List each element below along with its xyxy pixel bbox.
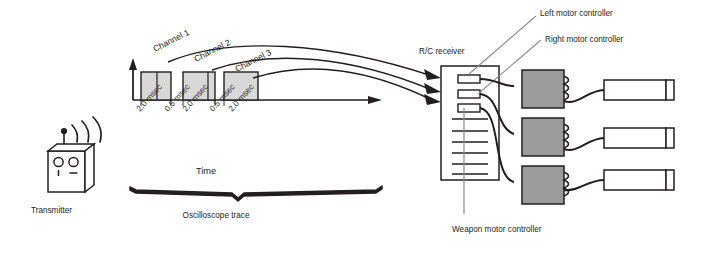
channel-3-arrow-path <box>253 69 432 100</box>
wire-controller-1-to-motor <box>564 90 604 102</box>
rc-receiver-group: R/C receiver <box>419 47 499 214</box>
left-controller-leader <box>469 16 536 74</box>
motor-cylinder-icon <box>604 170 674 190</box>
receiver-label: R/C receiver <box>419 47 465 56</box>
wire-controller-2-to-motor <box>564 138 604 150</box>
rc-system-diagram: Transmitter <box>0 0 704 254</box>
callout-right-motor-controller: Right motor controller <box>545 35 624 44</box>
receiver-connectors <box>458 75 480 112</box>
controller-box-2 <box>522 118 564 156</box>
motor-controller-1 <box>522 70 674 108</box>
channel-label-2: Channel 2 <box>192 37 232 64</box>
wire-controller-3-to-motor <box>564 180 604 190</box>
oscilloscope-trace-label: Oscilloscope trace <box>183 211 250 220</box>
callout-left-motor-controller: Left motor controller <box>540 9 613 18</box>
transmitter-label: Transmitter <box>31 206 72 215</box>
motor-cylinder-icon <box>604 80 674 100</box>
controller-box-3 <box>522 166 564 204</box>
radio-wave-icon <box>72 117 101 142</box>
motor-controller-3 <box>522 166 674 204</box>
motor-controller-2 <box>522 118 674 156</box>
channel-label-1: Channel 1 <box>151 27 191 54</box>
transmitter-body <box>48 144 94 192</box>
amplitude-axis-arrow-icon <box>129 58 137 100</box>
waveform-group: 2.0 msec 0.5 msec 2.0 msec 0.5 msec 2.0 … <box>129 58 382 176</box>
callout-weapon-motor-controller: Weapon motor controller <box>452 225 542 234</box>
channel-arrowheads <box>424 69 441 105</box>
channel-label-3: Channel 3 <box>233 47 273 74</box>
controller-box-1 <box>522 70 564 108</box>
diagram-canvas: Transmitter <box>0 0 704 254</box>
transmitter-group: Transmitter <box>31 117 101 215</box>
motor-cylinder-icon <box>604 128 674 148</box>
oscilloscope-brace-icon <box>130 186 382 201</box>
time-axis-label: Time <box>196 166 216 176</box>
